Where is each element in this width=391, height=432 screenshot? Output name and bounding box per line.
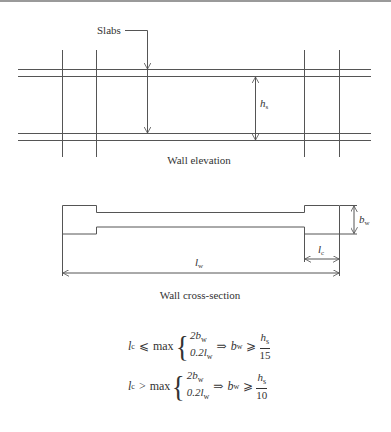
bw-label: bw [359, 213, 371, 227]
formula-1-fraction: hs 15 [259, 331, 270, 361]
lc-label: lc [318, 243, 324, 257]
implies-icon: ⇒ [213, 379, 223, 394]
formula-1-relation: ⩽ [139, 339, 149, 354]
formula-1-lhs-sub: c [131, 342, 135, 351]
formula-1-cases: 2bw 0.2lw [190, 329, 213, 363]
formula-1-numerator-sub: s [266, 337, 269, 346]
formula-2-case1: 2b [187, 369, 198, 381]
formula-row-1: lc ⩽ max { 2bw 0.2lw ⇒ bw ⩾ hs 15 [128, 329, 270, 363]
formula-2-case2: 0.2l [187, 386, 204, 398]
formula-1-case1-sub: w [201, 335, 207, 344]
wall-cross-section-caption: Wall cross-section [160, 289, 241, 301]
lw-label: lw [195, 256, 204, 270]
formula-1-case2-sub: w [207, 352, 213, 361]
formula-2-result-sub: w [233, 382, 239, 391]
formula-1-denominator: 15 [259, 349, 270, 361]
formula-2-numerator-sub: s [263, 377, 266, 386]
wall-elevation [18, 31, 371, 158]
formula-2-relation: > [139, 379, 146, 394]
formula-2-case2-sub: w [204, 392, 210, 401]
formula-2-case1-sub: w [198, 375, 204, 384]
formula-2-lhs-sub: c [131, 382, 135, 391]
brace-icon: { [175, 331, 188, 361]
formula-1-result-sub: w [237, 342, 243, 351]
section-outline [63, 206, 340, 235]
formula-2-result-rel: ⩾ [243, 379, 253, 394]
formula-1-case2: 0.2l [190, 346, 207, 358]
slabs-label: Slabs [97, 24, 121, 36]
formula-1-case1: 2b [190, 329, 201, 341]
wall-diagram: Slabs hs Wall elevation lw lc bw Wall cr… [0, 0, 391, 432]
wall-elevation-caption: Wall elevation [167, 154, 231, 166]
brace-icon: { [172, 371, 185, 401]
formula-1-max: max [153, 339, 174, 354]
formula-row-2: lc > max { 2bw 0.2lw ⇒ bw ⩾ hs 10 [128, 369, 267, 403]
slabs-leader [125, 31, 148, 69]
formula-2-fraction: hs 10 [256, 371, 267, 401]
formula-2-denominator: 10 [256, 389, 267, 401]
wall-cross-section [63, 206, 358, 277]
hs-label: hs [260, 97, 269, 111]
formula-1-result-rel: ⩾ [246, 339, 256, 354]
formula-2-cases: 2bw 0.2lw [187, 369, 210, 403]
formula-2-max: max [150, 379, 171, 394]
implies-icon: ⇒ [217, 339, 227, 354]
